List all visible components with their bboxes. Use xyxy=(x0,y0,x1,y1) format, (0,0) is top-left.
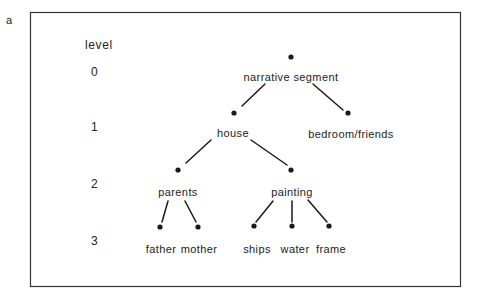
label-bedroom-friends: bedroom/friends xyxy=(308,128,394,140)
tree-edges xyxy=(162,84,343,222)
level-title: level xyxy=(85,38,113,52)
label-parents: parents xyxy=(158,186,198,198)
label-painting: painting xyxy=(271,186,313,198)
tree-diagram: a level 0 1 2 3 narrative segment xyxy=(0,0,482,298)
level-0: 0 xyxy=(91,65,98,79)
node-dot-ships xyxy=(251,223,256,228)
node-dot-mother xyxy=(195,224,200,229)
label-ships: ships xyxy=(243,243,271,255)
label-house: house xyxy=(217,127,249,139)
node-dot-parents xyxy=(175,167,180,172)
node-dot-painting xyxy=(288,167,293,172)
node-dot-water xyxy=(289,223,294,228)
node-dot-narrative xyxy=(288,54,293,59)
node-dot-bedroom xyxy=(345,110,350,115)
node-dot-house xyxy=(231,110,236,115)
edge-parents-mother xyxy=(185,201,196,222)
level-2: 2 xyxy=(91,177,98,191)
edge-narrative-bedroom xyxy=(313,84,343,110)
edge-painting-frame xyxy=(308,200,327,222)
level-3: 3 xyxy=(91,234,98,248)
tree-labels: narrative segment house bedroom/friends … xyxy=(146,71,394,255)
label-water: water xyxy=(280,243,310,255)
node-dot-father xyxy=(157,224,162,229)
panel-label: a xyxy=(6,14,13,26)
edge-house-parents xyxy=(186,140,211,163)
label-mother: mother xyxy=(181,243,218,255)
edge-parents-father xyxy=(162,201,168,222)
level-1: 1 xyxy=(91,120,98,134)
edge-narrative-house xyxy=(242,84,265,106)
node-dot-frame xyxy=(326,223,331,228)
edge-painting-ships xyxy=(256,201,273,222)
label-narrative-segment: narrative segment xyxy=(244,71,339,83)
edge-house-painting xyxy=(251,140,287,165)
level-axis: level 0 1 2 3 xyxy=(85,38,113,248)
label-frame: frame xyxy=(316,243,346,255)
label-father: father xyxy=(146,243,177,255)
